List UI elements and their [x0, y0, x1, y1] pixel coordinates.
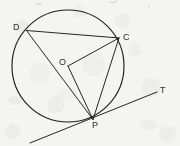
scan-artifacts — [36, 1, 150, 8]
point-label-T: T — [160, 86, 166, 95]
radius-OP — [68, 66, 93, 120]
point-label-O: O — [59, 58, 66, 67]
tangent-line-PT — [30, 92, 157, 143]
point-label-D: D — [13, 23, 20, 32]
point-label-P: P — [92, 121, 98, 130]
segment-DP — [27, 31, 94, 120]
geometry-canvas — [0, 0, 180, 146]
segment-DC — [27, 31, 120, 39]
geometry-figure: D C O P T — [0, 0, 180, 146]
point-label-C: C — [123, 33, 130, 42]
